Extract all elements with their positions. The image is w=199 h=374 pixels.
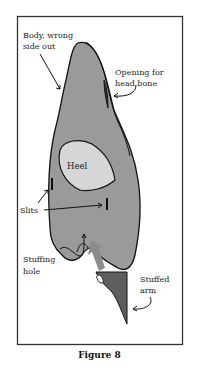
- stuffed-arm-label-line1: Stuffed: [140, 275, 169, 284]
- stuffed-arm-label-line2: arm: [140, 286, 157, 295]
- slits-label: Slits: [20, 206, 38, 215]
- stuffing-hole-label-line1: Stuffing: [23, 255, 55, 264]
- stuffing-hole-label-line2: hole: [23, 267, 41, 276]
- opening-label-line1: Opening for: [115, 68, 164, 77]
- opening-label-line2: head bone: [115, 79, 157, 88]
- body-label-line2: side out: [23, 42, 56, 51]
- figure-caption: Figure 8: [0, 350, 199, 360]
- body-label-line1: Body, wrong: [23, 31, 73, 40]
- figure-8-diagram: Heel Body, wrong side out Op: [0, 0, 199, 374]
- heel-label: Heel: [67, 161, 87, 171]
